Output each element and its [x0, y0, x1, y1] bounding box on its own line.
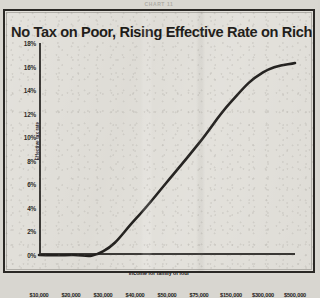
x-tick-label: $20,000	[61, 292, 80, 298]
chart-frame: No Tax on Poor, Rising Effective Rate on…	[3, 9, 315, 273]
x-tick-label: $300,000	[252, 292, 274, 298]
x-tick-label: $30,000	[93, 292, 112, 298]
x-tick-label: $50,000	[157, 292, 176, 298]
x-tick-label: $40,000	[125, 292, 144, 298]
tax-rate-line	[39, 63, 295, 256]
x-tick-label: $75,000	[189, 292, 208, 298]
x-tick-label: $500,000	[284, 292, 306, 298]
series-layer	[5, 11, 320, 287]
x-tick-label: $150,000	[220, 292, 242, 298]
chart-kicker: CHART 11	[0, 0, 318, 9]
x-tick-label: $10,000	[29, 292, 48, 298]
